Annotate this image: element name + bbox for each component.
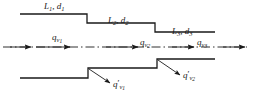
branch-arrow-2 [158, 60, 180, 75]
length-subscript-1: 1 [49, 5, 52, 12]
flow-symbol-3: q [197, 37, 202, 47]
branch-arrow-1 [89, 69, 110, 83]
flow-rate-label-3: qv3 [197, 38, 207, 47]
flow-index-2: 2 [147, 43, 150, 49]
flow-rate-label-2: qv2 [140, 38, 150, 47]
pipe-flow-figure: L1, d1 L2, d2 L3, d3 qv1 qv2 qv3 q′v1 q′… [0, 0, 253, 101]
flow-index-1: 1 [59, 38, 62, 44]
diameter-subscript-1: 1 [61, 5, 64, 12]
branch-symbol-2: q [183, 70, 188, 80]
flow-rate-label-1: qv1 [52, 33, 62, 42]
dimension-label-section-2: L2, d2 [108, 16, 129, 25]
diameter-subscript-2: 2 [125, 19, 128, 26]
branch-symbol-1: q [113, 79, 118, 89]
diameter-subscript-3: 3 [189, 30, 192, 37]
branch-outflow-label-1: q′v1 [113, 80, 125, 89]
flow-symbol-2: q [140, 37, 145, 47]
flow-index-3: 3 [204, 43, 207, 49]
branch-outflow-label-2: q′v2 [183, 71, 195, 80]
branch-index-1: 1 [122, 85, 125, 91]
dimension-label-section-3: L3, d3 [172, 27, 193, 36]
branch-index-2: 2 [192, 76, 195, 82]
length-subscript-3: 3 [177, 30, 180, 37]
length-subscript-2: 2 [113, 19, 116, 26]
dimension-label-section-1: L1, d1 [44, 2, 65, 11]
flow-symbol-1: q [52, 32, 57, 42]
